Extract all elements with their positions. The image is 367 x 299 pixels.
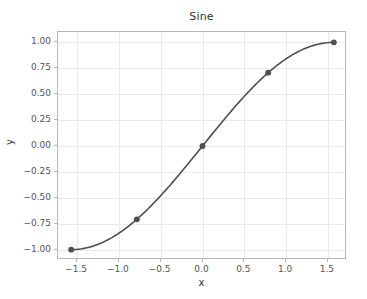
- x-tickmark: [160, 259, 161, 262]
- x-tickmark: [243, 259, 244, 262]
- y-tick-label: −0.50: [10, 192, 51, 202]
- y-tick-label: 1.00: [10, 36, 51, 46]
- chart-figure: Sine −1.5−1.0−0.50.00.51.01.5 1.000.750.…: [0, 0, 367, 299]
- x-tick-label: −1.0: [107, 264, 129, 274]
- y-tickmark: [54, 119, 57, 120]
- x-tick-label: 1.5: [320, 264, 334, 274]
- chart-title: Sine: [57, 10, 346, 23]
- x-axis-label: x: [57, 277, 346, 288]
- x-tick-label: 0.0: [194, 264, 208, 274]
- y-tickmark: [54, 93, 57, 94]
- data-point: [265, 70, 271, 76]
- y-tick-label: −1.00: [10, 244, 51, 254]
- y-tickmark: [54, 67, 57, 68]
- y-tickmark: [54, 145, 57, 146]
- data-point: [134, 216, 140, 222]
- y-tick-label: −0.75: [10, 218, 51, 228]
- y-tickmark: [54, 197, 57, 198]
- y-tickmark: [54, 41, 57, 42]
- x-tickmark: [76, 259, 77, 262]
- x-tick-label: −1.5: [65, 264, 87, 274]
- y-tick-label: 0.50: [10, 88, 51, 98]
- y-tick-label: 0.00: [10, 140, 51, 150]
- y-axis-label: y: [4, 139, 15, 145]
- x-tick-label: −0.5: [149, 264, 171, 274]
- y-tickmark: [54, 249, 57, 250]
- data-point: [331, 39, 337, 45]
- y-tick-label: 0.25: [10, 114, 51, 124]
- x-tickmark: [285, 259, 286, 262]
- y-tick-label: −0.25: [10, 166, 51, 176]
- y-tick-label: 0.75: [10, 62, 51, 72]
- data-point: [200, 143, 206, 149]
- sine-curve-svg: [58, 32, 346, 259]
- data-point: [68, 247, 74, 253]
- data-point-markers: [68, 39, 337, 252]
- x-tick-label: 1.0: [278, 264, 292, 274]
- y-tickmark: [54, 171, 57, 172]
- x-tickmark: [118, 259, 119, 262]
- x-tick-label: 0.5: [236, 264, 250, 274]
- y-tickmark: [54, 223, 57, 224]
- x-tickmark: [327, 259, 328, 262]
- x-tickmark: [202, 259, 203, 262]
- plot-area: [57, 31, 346, 259]
